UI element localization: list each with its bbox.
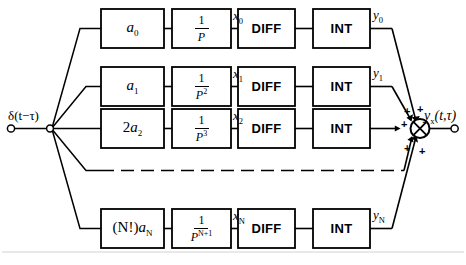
input-terminal xyxy=(7,125,53,132)
summing-junction xyxy=(411,119,430,138)
wiring-layer xyxy=(0,0,466,265)
input-fanout xyxy=(53,29,102,229)
block-diagram: δ(t−τ) a0 1P DIFF INT x0 y0 a1 1P2 DIFF … xyxy=(0,0,466,265)
output-terminal xyxy=(430,125,459,132)
